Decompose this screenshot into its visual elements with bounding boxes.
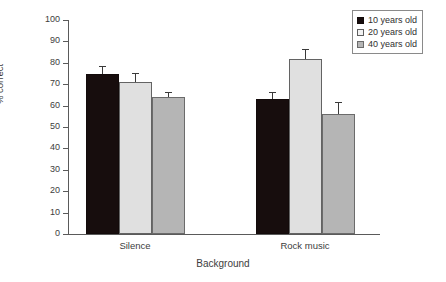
x-category-label: Rock music <box>245 240 365 251</box>
x-category-label: Silence <box>75 240 195 251</box>
error-bar-stem <box>305 50 306 59</box>
legend-item: 10 years old <box>357 14 417 26</box>
y-tick-mark <box>63 234 68 235</box>
error-bar-stem <box>135 74 136 83</box>
error-bar-cap <box>335 102 342 103</box>
y-tick-label: 50 <box>36 121 60 131</box>
legend-item-label: 20 years old <box>368 26 417 38</box>
error-bar-cap <box>132 73 139 74</box>
y-tick-label: 30 <box>36 164 60 174</box>
error-bar-stem <box>338 103 339 114</box>
y-tick-label: 10 <box>36 207 60 217</box>
y-tick-label: 70 <box>36 78 60 88</box>
error-bar-stem <box>168 93 169 97</box>
y-tick-label: 60 <box>36 100 60 110</box>
legend-swatch-icon <box>357 17 364 24</box>
x-axis-line <box>68 234 380 235</box>
bar <box>86 74 119 235</box>
y-tick-label: 80 <box>36 57 60 67</box>
bar <box>152 97 185 234</box>
error-bar-cap <box>269 92 276 93</box>
legend-item: 40 years old <box>357 38 417 50</box>
y-tick-label: 40 <box>36 142 60 152</box>
bar <box>289 59 322 234</box>
bar <box>322 114 355 234</box>
y-tick-label: 20 <box>36 185 60 195</box>
legend-item: 20 years old <box>357 26 417 38</box>
error-bar-cap <box>99 66 106 67</box>
y-tick-label: 100 <box>36 14 60 24</box>
legend-swatch-icon <box>357 29 364 36</box>
x-axis-label: Background <box>0 258 446 269</box>
error-bar-stem <box>102 67 103 73</box>
y-tick-label: 90 <box>36 35 60 45</box>
legend: 10 years old20 years old40 years old <box>352 10 423 54</box>
legend-item-label: 40 years old <box>368 38 417 50</box>
error-bar-cap <box>165 92 172 93</box>
error-bar-stem <box>272 93 273 99</box>
error-bar-cap <box>302 49 309 50</box>
bar <box>119 82 152 234</box>
legend-item-label: 10 years old <box>368 14 417 26</box>
y-axis-label: % correct <box>0 64 5 104</box>
legend-swatch-icon <box>357 41 364 48</box>
bar-chart-figure: % correct 0102030405060708090100 Silence… <box>0 0 446 282</box>
bar <box>256 99 289 234</box>
plot-area <box>68 20 380 234</box>
y-tick-label: 0 <box>36 228 60 238</box>
